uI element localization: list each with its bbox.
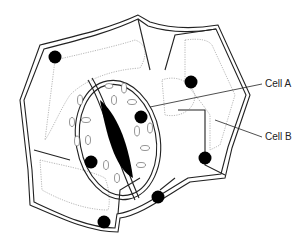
cell-membranes bbox=[40, 39, 235, 210]
nucleus bbox=[49, 51, 62, 64]
cell-a-label: Cell A bbox=[265, 78, 291, 89]
nucleus bbox=[152, 191, 165, 204]
cell-b-label: Cell B bbox=[265, 131, 292, 142]
cell-b-leader bbox=[215, 120, 262, 137]
guard-cells bbox=[66, 74, 170, 207]
nuclei bbox=[49, 51, 212, 229]
stomata-diagram bbox=[0, 0, 304, 251]
nucleus bbox=[185, 76, 198, 89]
nucleus bbox=[199, 152, 212, 165]
nucleus bbox=[135, 111, 148, 124]
nucleus bbox=[85, 156, 98, 169]
nucleus bbox=[98, 216, 111, 229]
cell-a-leader bbox=[150, 84, 262, 107]
